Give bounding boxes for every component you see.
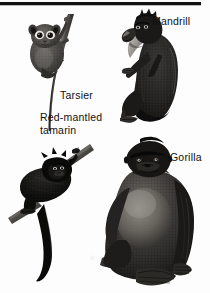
label-tarsier: Tarsier	[60, 90, 93, 101]
illustration-page: Mandrill Tarsier Red-mantled tamarin Gor…	[0, 0, 210, 293]
label-mandrill: Mandrill	[152, 16, 190, 27]
top-rule-shadow	[0, 5, 201, 6]
label-red-mantled-tamarin-line1: Red-mantled	[40, 112, 102, 123]
label-gorilla: Gorilla	[170, 152, 202, 163]
mandrill-figure	[108, 8, 190, 136]
label-red-mantled-tamarin-line2: tamarin	[40, 125, 76, 136]
red-mantled-tamarin-figure	[8, 138, 94, 290]
